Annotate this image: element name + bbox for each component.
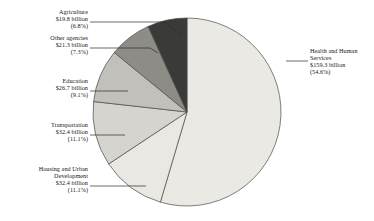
- slice-label-agriculture: Agriculture $19.8 billion (6.8%): [56, 8, 88, 29]
- slice-label-hhs-name-line1: Health and Human: [310, 47, 358, 54]
- slice-label-hhs-name-line2: Services: [310, 54, 358, 61]
- slice-label-hhs-percent: (54.6%): [310, 68, 358, 75]
- slice-label-other-agencies-name: Other agencies: [50, 34, 88, 41]
- slice-label-transportation-name: Transportation: [51, 121, 88, 128]
- slice-label-education-percent: (9.1%): [56, 91, 88, 98]
- slice-label-housing: Housing and Urban Development $32.4 bill…: [39, 165, 88, 193]
- slice-label-agriculture-name: Agriculture: [56, 8, 88, 15]
- slice-label-transportation: Transportation $32.4 billion (11.1%): [51, 121, 88, 142]
- slice-label-hhs-value: $159.3 billion: [310, 61, 358, 68]
- slice-label-education-name: Education: [56, 77, 88, 84]
- slice-label-housing-value: $32.4 billion: [39, 179, 88, 186]
- slice-label-other-agencies-percent: (7.3%): [50, 48, 88, 55]
- slice-label-transportation-percent: (11.1%): [51, 135, 88, 142]
- slice-label-housing-name-line2: Development: [39, 172, 88, 179]
- slice-label-other-agencies: Other agencies $21.3 billion (7.3%): [50, 34, 88, 55]
- slice-label-education-value: $26.7 billion: [56, 84, 88, 91]
- slice-label-hhs: Health and Human Services $159.3 billion…: [310, 47, 358, 75]
- slice-label-agriculture-percent: (6.8%): [56, 22, 88, 29]
- slice-label-education: Education $26.7 billion (9.1%): [56, 77, 88, 98]
- pie-slices-group: [93, 18, 281, 206]
- pie-chart: Agriculture $19.8 billion (6.8%) Other a…: [0, 0, 374, 221]
- slice-label-housing-name-line1: Housing and Urban: [39, 165, 88, 172]
- slice-label-other-agencies-value: $21.3 billion: [50, 41, 88, 48]
- slice-label-housing-percent: (11.1%): [39, 186, 88, 193]
- slice-label-transportation-value: $32.4 billion: [51, 128, 88, 135]
- slice-label-agriculture-value: $19.8 billion: [56, 15, 88, 22]
